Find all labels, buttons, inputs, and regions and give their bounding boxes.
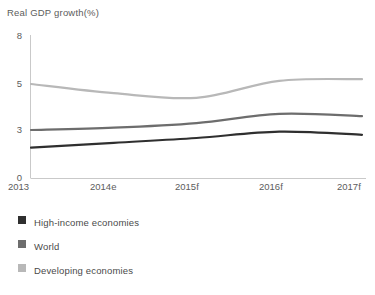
legend-label-world: World [34, 241, 59, 252]
series-line-high-income-economies [31, 132, 362, 148]
plot-area: 8 5 3 0 [0, 26, 375, 188]
legend-item-developing-economies: Developing economies [0, 258, 375, 282]
series-line-world [31, 114, 362, 130]
x-tick-label-2016f: 2016f [259, 182, 283, 192]
legend-swatch-icon-high-income-economies [18, 216, 26, 224]
x-axis-labels: 2013 2014e 2015f 2016f 2017f [0, 182, 375, 196]
legend-item-world: World [0, 234, 375, 258]
x-tick-label-2017f: 2017f [337, 182, 361, 192]
series-lines-group [31, 79, 362, 148]
legend-label-high-income-economies: High-income economies [34, 217, 139, 228]
x-tick-label-2014e: 2014e [90, 182, 116, 192]
legend-item-high-income-economies: High-income economies [0, 210, 375, 234]
legend-label-developing-economies: Developing economies [34, 265, 133, 276]
chart-plot-svg [0, 26, 375, 188]
chart-legend: High-income economies World Developing e… [0, 210, 375, 282]
legend-swatch-icon-developing-economies [18, 264, 26, 272]
series-line-developing-economies [31, 79, 362, 98]
chart-title: Real GDP growth(%) [7, 7, 99, 18]
x-tick-label-2013: 2013 [8, 182, 29, 192]
x-tick-label-2015f: 2015f [175, 182, 199, 192]
legend-swatch-icon-world [18, 240, 26, 248]
real-gdp-growth-chart: Real GDP growth(%) 8 5 3 0 2013 2014e 20… [0, 0, 375, 295]
